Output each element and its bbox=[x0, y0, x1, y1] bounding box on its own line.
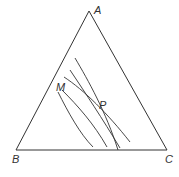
vertex-label-a: A bbox=[93, 4, 101, 16]
curve-group bbox=[58, 58, 130, 150]
vertex-label-b: B bbox=[12, 153, 19, 165]
point-label-p: P bbox=[99, 99, 107, 111]
triangle-outline bbox=[16, 11, 167, 150]
curve-1 bbox=[58, 92, 93, 147]
curve-4 bbox=[70, 70, 120, 148]
point-label-m: M bbox=[56, 81, 66, 93]
curve-3 bbox=[64, 77, 130, 142]
ternary-diagram: A B C M P bbox=[0, 0, 179, 177]
vertex-label-c: C bbox=[165, 153, 173, 165]
